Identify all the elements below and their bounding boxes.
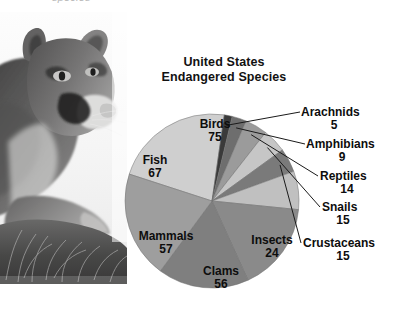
callout-snails: Snails 15 [322, 201, 364, 227]
slice-label-insects-name: Insects [251, 233, 292, 247]
callout-amphibians-value: 9 [306, 151, 378, 164]
slice-label-birds-value: 75 [186, 131, 244, 144]
slice-label-mammals: Mammals 57 [128, 230, 204, 256]
callout-amphibians: Amphibians 9 [306, 138, 378, 164]
slice-label-fish: Fish 67 [131, 154, 179, 180]
callout-arachnids: Arachnids 5 [301, 106, 367, 132]
callout-reptiles: Reptiles 14 [320, 170, 374, 196]
slice-label-mammals-value: 57 [128, 243, 204, 256]
slice-label-fish-name: Fish [143, 153, 168, 167]
callout-crustaceans-value: 15 [303, 250, 383, 263]
slice-label-fish-value: 67 [131, 167, 179, 180]
callout-reptiles-value: 14 [320, 183, 374, 196]
callout-arachnids-value: 5 [301, 119, 367, 132]
slice-label-birds-name: Birds [200, 117, 231, 131]
endangered-species-figure: species [0, 0, 397, 325]
slice-label-clams-name: Clams [203, 264, 239, 278]
slice-label-birds: Birds 75 [186, 118, 244, 144]
slice-label-insects: Insects 24 [245, 234, 299, 260]
slice-label-mammals-name: Mammals [139, 229, 194, 243]
slice-label-insects-value: 24 [245, 247, 299, 260]
slice-label-clams-value: 56 [194, 278, 248, 291]
callout-snails-value: 15 [322, 214, 364, 227]
callout-crustaceans: Crustaceans 15 [303, 237, 383, 263]
slice-label-clams: Clams 56 [194, 265, 248, 291]
